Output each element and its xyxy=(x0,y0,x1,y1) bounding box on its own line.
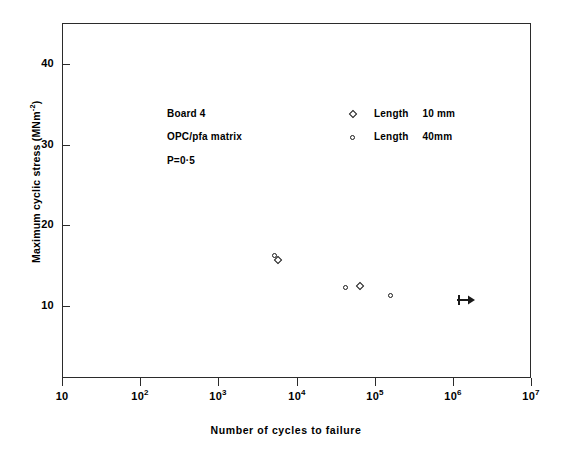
x-tick-mantissa: 10 xyxy=(522,390,535,402)
annotation-matrix: OPC/pfa matrix xyxy=(167,131,242,142)
y-axis-title: Maximum cyclic stress (MNm-2) xyxy=(28,62,42,302)
x-tick-mantissa: 10 xyxy=(288,390,301,402)
circle-marker-icon xyxy=(348,131,374,142)
annotation-matrix-text: OPC/pfa matrix xyxy=(167,131,242,142)
legend-value: 40mm xyxy=(423,131,453,142)
data-point-circle xyxy=(343,285,348,290)
x-tick-mantissa: 10 xyxy=(366,390,379,402)
x-tick-label: 10 xyxy=(32,388,92,402)
legend-label: Length xyxy=(374,131,409,142)
x-tick-exponent: 5 xyxy=(379,388,384,397)
x-tick-mark xyxy=(140,378,141,386)
x-tick-mark xyxy=(218,378,219,386)
x-tick-label: 103 xyxy=(188,388,248,402)
x-tick-label: 102 xyxy=(110,388,170,402)
annotation-board: Board 4 xyxy=(167,108,206,119)
x-tick-exponent: 2 xyxy=(144,388,149,397)
x-tick-mark xyxy=(375,378,376,386)
y-tick-mark xyxy=(62,225,70,226)
legend-entry-length-40mm: Length 40mm xyxy=(348,131,452,142)
x-axis-title: Number of cycles to failure xyxy=(0,424,572,436)
x-tick-mark xyxy=(453,378,454,386)
annotation-probability: P=0·5 xyxy=(167,155,195,166)
x-tick-exponent: 6 xyxy=(457,388,462,397)
x-tick-mantissa: 10 xyxy=(209,390,222,402)
plot-area xyxy=(62,23,531,378)
legend-value: 10 mm xyxy=(423,108,456,119)
x-tick-mark xyxy=(531,378,532,386)
x-tick-label: 106 xyxy=(423,388,483,402)
diamond-marker-icon xyxy=(348,108,374,119)
x-tick-exponent: 7 xyxy=(535,388,540,397)
y-tick-mark xyxy=(62,64,70,65)
y-tick-mark xyxy=(62,306,70,307)
legend-entry-length-10mm: Length 10 mm xyxy=(348,108,455,119)
x-tick-label: 107 xyxy=(501,388,561,402)
x-tick-mantissa: 10 xyxy=(131,390,144,402)
x-tick-mark xyxy=(62,378,63,386)
x-tick-label: 104 xyxy=(267,388,327,402)
x-tick-mantissa: 10 xyxy=(444,390,457,402)
run-out-arrow-icon xyxy=(455,293,477,311)
legend-label: Length xyxy=(374,108,409,119)
y-axis-exponent: -2 xyxy=(28,104,37,111)
x-tick-exponent: 3 xyxy=(222,388,227,397)
y-tick-mark xyxy=(62,145,70,146)
x-tick-mark xyxy=(297,378,298,386)
x-tick-label: 105 xyxy=(345,388,405,402)
x-tick-exponent: 4 xyxy=(301,388,306,397)
figure-canvas: 10 20 30 40 10 102 103 104 105 106 107 M… xyxy=(0,0,572,450)
x-tick-mantissa: 10 xyxy=(56,390,69,402)
